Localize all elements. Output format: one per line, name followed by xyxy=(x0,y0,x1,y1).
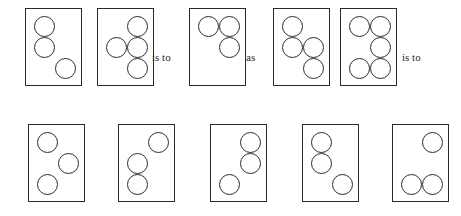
relation-word-3: is to xyxy=(402,52,421,63)
option-panel-a[interactable] xyxy=(28,124,85,202)
circle-icon xyxy=(34,16,55,37)
circle-icon xyxy=(37,132,58,153)
circle-icon xyxy=(311,153,332,174)
circle-icon xyxy=(198,16,219,37)
prompt-panel-4 xyxy=(273,8,330,86)
circle-icon xyxy=(127,174,148,195)
circle-icon xyxy=(219,174,240,195)
circle-icon xyxy=(55,58,76,79)
prompt-panel-3 xyxy=(189,8,246,86)
circle-icon xyxy=(370,37,391,58)
circle-icon xyxy=(37,174,58,195)
circle-icon xyxy=(332,174,353,195)
circle-icon xyxy=(34,37,55,58)
circle-icon xyxy=(349,16,370,37)
circle-icon xyxy=(303,37,324,58)
option-panel-c[interactable] xyxy=(210,124,267,202)
circle-icon xyxy=(127,58,148,79)
circle-icon xyxy=(370,58,391,79)
circle-icon xyxy=(219,37,240,58)
circle-icon xyxy=(127,37,148,58)
circle-icon xyxy=(303,58,324,79)
circle-icon xyxy=(106,37,127,58)
circle-icon xyxy=(58,153,79,174)
relation-word-1: is to xyxy=(152,52,171,63)
circle-icon xyxy=(240,153,261,174)
puzzle-canvas: is toasis to xyxy=(0,0,461,216)
option-panel-d[interactable] xyxy=(302,124,359,202)
circle-icon xyxy=(127,153,148,174)
relation-word-2: as xyxy=(246,52,255,63)
circle-icon xyxy=(311,132,332,153)
circle-icon xyxy=(282,16,303,37)
circle-icon xyxy=(282,37,303,58)
prompt-panel-2 xyxy=(97,8,154,86)
circle-icon xyxy=(219,16,240,37)
circle-icon xyxy=(148,132,169,153)
circle-icon xyxy=(422,174,443,195)
circle-icon xyxy=(349,58,370,79)
prompt-panel-5 xyxy=(340,8,397,86)
circle-icon xyxy=(401,174,422,195)
circle-icon xyxy=(370,16,391,37)
circle-icon xyxy=(422,132,443,153)
option-panel-b[interactable] xyxy=(118,124,175,202)
circle-icon xyxy=(240,132,261,153)
prompt-panel-1 xyxy=(25,8,82,86)
option-panel-e[interactable] xyxy=(392,124,449,202)
circle-icon xyxy=(127,16,148,37)
